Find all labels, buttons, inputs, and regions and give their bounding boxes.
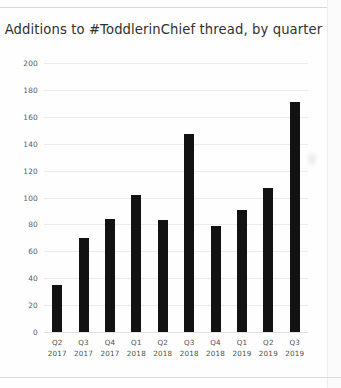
chart-title: Additions to #ToddlerinChief thread, by …	[0, 22, 327, 37]
y-axis-tick-label: 120	[23, 166, 38, 175]
x-axis-tick-label: Q32018	[176, 338, 202, 359]
gridline: 0	[44, 332, 308, 333]
scan-edge-right	[327, 0, 328, 388]
y-axis-tick-label: 80	[28, 220, 38, 229]
bar	[211, 226, 221, 332]
bar	[237, 210, 247, 332]
x-axis-tick-label: Q22018	[150, 338, 176, 359]
bar	[52, 285, 62, 332]
scan-page-margin-right	[328, 0, 341, 388]
x-axis-tick-label: Q32017	[70, 338, 96, 359]
y-axis-tick-label: 0	[33, 328, 38, 337]
y-axis-tick-label: 180	[23, 85, 38, 94]
y-axis-tick-label: 140	[23, 139, 38, 148]
bar	[131, 195, 141, 332]
x-axis-tick-label: Q42017	[97, 338, 123, 359]
x-axis-tick-label: Q22017	[44, 338, 70, 359]
bar-slot	[70, 63, 96, 332]
x-axis-tick-label: Q22019	[255, 338, 281, 359]
bar	[79, 238, 89, 332]
chart-page: Additions to #ToddlerinChief thread, by …	[0, 0, 341, 388]
bar	[158, 220, 168, 332]
x-axis-tick-label: Q42018	[202, 338, 228, 359]
x-axis-tick-label: Q12019	[229, 338, 255, 359]
y-axis-tick-label: 20	[28, 301, 38, 310]
y-axis-tick-label: 100	[23, 193, 38, 202]
y-axis-tick-label: 40	[28, 274, 38, 283]
scan-edge-top	[0, 7, 341, 8]
bar-slot	[150, 63, 176, 332]
bar-slot	[255, 63, 281, 332]
bar-slot	[123, 63, 149, 332]
bar-slot	[202, 63, 228, 332]
plot-area: 200180160140120100806040200	[44, 63, 308, 332]
bar-slot	[44, 63, 70, 332]
bar	[184, 134, 194, 332]
bar-slot	[97, 63, 123, 332]
x-axis-tick-label: Q32019	[282, 338, 308, 359]
y-axis-tick-label: 200	[23, 59, 38, 68]
bar-slot	[229, 63, 255, 332]
bar	[263, 188, 273, 332]
bar	[290, 102, 300, 332]
x-axis-tick-label: Q12018	[123, 338, 149, 359]
bar	[105, 219, 115, 332]
bar-slot	[176, 63, 202, 332]
y-axis-tick-label: 60	[28, 247, 38, 256]
bar-series	[44, 63, 308, 332]
bar-slot	[282, 63, 308, 332]
x-axis-labels: Q22017Q32017Q42017Q12018Q22018Q32018Q420…	[44, 338, 308, 378]
y-axis-tick-label: 160	[23, 112, 38, 121]
